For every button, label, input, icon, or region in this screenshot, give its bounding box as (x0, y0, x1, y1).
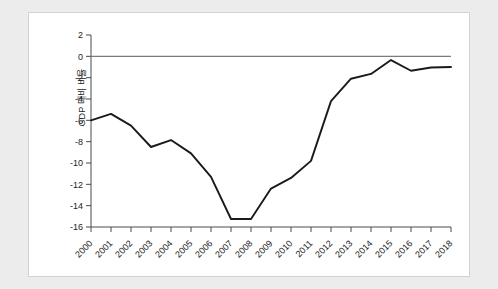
y-tick-label: -4 (75, 94, 83, 104)
x-tick-label: 2004 (153, 238, 174, 259)
y-axis-ticks: 20-2-4-6-8-10-12-14-16 (70, 31, 91, 232)
x-tick-label: 2000 (73, 238, 94, 259)
x-tick-label: 2001 (93, 238, 114, 259)
x-tick-label: 2017 (413, 238, 434, 259)
y-tick-label: -12 (70, 180, 83, 190)
y-tick-label: 0 (78, 52, 83, 62)
x-tick-label: 2005 (173, 238, 194, 259)
x-tick-label: 2016 (393, 238, 414, 259)
x-tick-label: 2003 (133, 238, 154, 259)
x-tick-label: 2014 (353, 238, 374, 259)
y-tick-label: -16 (70, 222, 83, 232)
x-axis-ticks (91, 227, 451, 232)
line-chart-svg: 20-2-4-6-8-10-12-14-16 (69, 31, 455, 236)
y-tick-label: -14 (70, 201, 83, 211)
y-tick-label: -2 (75, 73, 83, 83)
y-tick-label: -10 (70, 158, 83, 168)
y-tick-label: -6 (75, 116, 83, 126)
x-tick-label: 2002 (113, 238, 134, 259)
x-tick-label: 2018 (433, 238, 454, 259)
x-tick-label: 2011 (294, 238, 315, 259)
y-tick-label: -8 (75, 137, 83, 147)
x-tick-label: 2013 (333, 238, 354, 259)
x-tick-label: 2006 (193, 238, 214, 259)
x-tick-label: 2009 (253, 238, 274, 259)
chart-figure: GDP 대비 비율 20-2-4-6-8-10-12-14-16 2000200… (28, 12, 470, 277)
x-axis-labels: 2000200120022003200420052006200720082009… (69, 236, 455, 289)
data-line-series-0 (91, 60, 451, 219)
x-tick-label: 2012 (313, 238, 334, 259)
y-tick-label: 2 (78, 31, 83, 40)
x-tick-label: 2015 (373, 238, 394, 259)
x-tick-label: 2010 (273, 238, 294, 259)
x-tick-label: 2007 (213, 238, 234, 259)
plot-area: 20-2-4-6-8-10-12-14-16 20002001200220032… (69, 31, 455, 236)
x-tick-label: 2008 (233, 238, 254, 259)
